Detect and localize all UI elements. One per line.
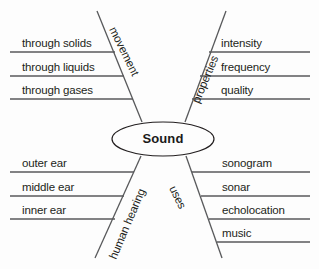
branch-item-movement-1: through liquids xyxy=(22,62,95,74)
branch-item-human-hearing-2: inner ear xyxy=(22,205,66,217)
branch-item-properties-1: frequency xyxy=(221,62,270,74)
branch-item-movement-2: through gases xyxy=(22,85,93,97)
branch-item-movement-0: through solids xyxy=(22,38,92,50)
branch-item-uses-1: sonar xyxy=(222,182,250,194)
branch-item-human-hearing-1: middle ear xyxy=(22,182,74,194)
concept-map-diagram: through solidsthrough liquidsthrough gas… xyxy=(0,0,319,269)
branch-item-properties-2: quality xyxy=(221,85,253,97)
branch-item-properties-0: intensity xyxy=(221,38,262,50)
branch-item-human-hearing-0: outer ear xyxy=(22,158,67,170)
branch-stem-uses xyxy=(186,156,222,258)
center-node-label: Sound xyxy=(143,131,184,146)
branch-item-uses-0: sonogram xyxy=(222,158,272,170)
branch-item-uses-2: echolocation xyxy=(222,205,285,217)
branch-item-uses-3: music xyxy=(222,228,251,240)
